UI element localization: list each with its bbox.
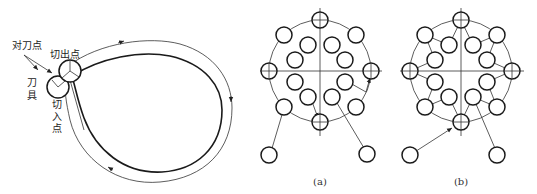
hole-outer: [489, 99, 505, 115]
entry-label-1: 切: [52, 99, 62, 110]
hole-pattern-figure-b: (b): [400, 8, 524, 187]
hole-inner: [337, 52, 353, 68]
hole-inner: [441, 37, 457, 53]
hole-inner: [337, 74, 353, 90]
hole-inner: [427, 52, 443, 68]
hole-inner: [479, 52, 495, 68]
tool-setting-point-label: 对刀点: [12, 39, 42, 51]
entry-label-3: 点: [52, 123, 62, 134]
hole-outer: [276, 99, 292, 115]
entry-label-2: 入: [52, 111, 62, 122]
hole-end: [359, 146, 375, 162]
hole-inner: [441, 89, 457, 105]
hole-inner: [324, 37, 340, 53]
caption-a: (a): [313, 176, 327, 187]
hole-outer: [348, 99, 364, 115]
hole-inner: [324, 89, 340, 105]
direction-arrow-icon: [108, 167, 113, 170]
tool-label-2: 具: [27, 90, 37, 101]
hole-start: [402, 147, 418, 163]
cut-in-path: [70, 80, 84, 130]
tool-label-1: 刀: [27, 77, 37, 88]
hole-start: [261, 147, 277, 163]
hole-outer: [348, 27, 364, 43]
leader-arrow-icon: [24, 55, 52, 73]
part-contour: [72, 54, 222, 172]
hole-inner: [465, 89, 481, 105]
hole-outer: [276, 27, 292, 43]
hole-inner: [287, 74, 303, 90]
hole-pattern-figure-a: (a): [260, 8, 382, 187]
exit-point-label: 切出点: [50, 48, 80, 60]
hole-outer: [417, 27, 433, 43]
hole-inner: [465, 37, 481, 53]
hole-inner: [300, 89, 316, 105]
hole-inner: [287, 52, 303, 68]
contour-toolpath-figure: 对刀点 切出点 刀 具 切 入 点: [12, 39, 232, 182]
hole-inner: [300, 37, 316, 53]
diagram-canvas: 对刀点 切出点 刀 具 切 入 点: [0, 0, 537, 194]
caption-b: (b): [454, 176, 468, 187]
hole-end: [489, 147, 505, 163]
hole-outer: [417, 99, 433, 115]
tool-center-path: [65, 41, 232, 183]
hole-outer: [489, 27, 505, 43]
direction-arrow-icon: [118, 41, 124, 43]
hole-inner: [479, 74, 495, 90]
hole-inner: [427, 74, 443, 90]
